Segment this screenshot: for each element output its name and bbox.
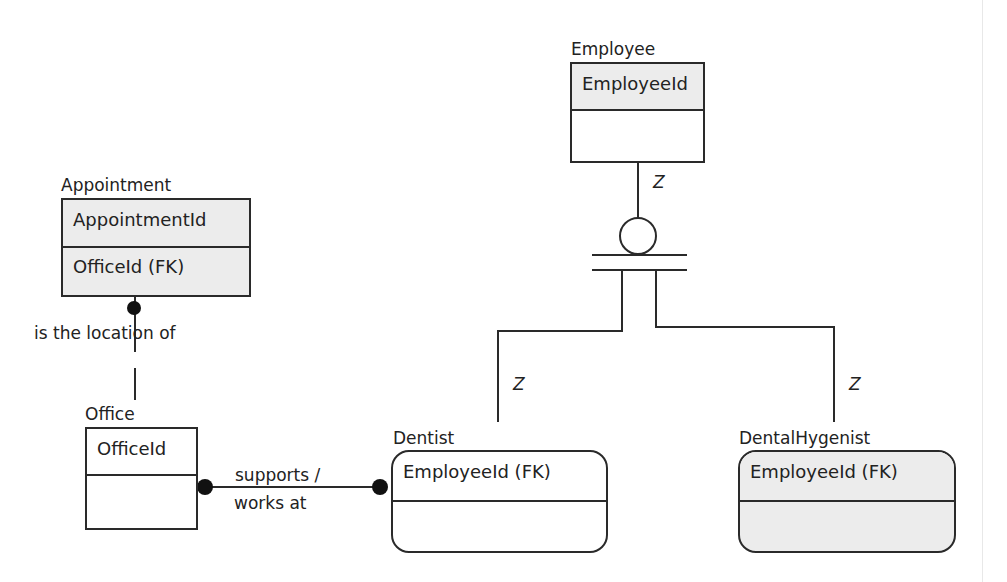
entity-name-office: Office xyxy=(85,404,135,424)
entity-key-appointment: AppointmentId xyxy=(63,200,249,248)
entity-dental-hygenist[interactable]: EmployeeId (FK) xyxy=(738,450,956,553)
entity-attrs-dental-hygenist xyxy=(740,502,954,510)
diagram-canvas: Employee EmployeeId Z Appointment Appoin… xyxy=(0,0,1007,582)
entity-office[interactable]: OfficeId xyxy=(85,427,198,530)
entity-attrs-dentist xyxy=(393,502,606,510)
entity-attrs-office xyxy=(87,476,196,484)
entity-name-appointment: Appointment xyxy=(61,175,171,195)
relationship-dot-office xyxy=(197,479,213,495)
cardinality-label-dentist: Z xyxy=(513,374,525,394)
entity-dentist[interactable]: EmployeeId (FK) xyxy=(391,450,608,553)
relationship-label-works-at: works at xyxy=(234,493,306,513)
entity-appointment[interactable]: AppointmentId OfficeId (FK) xyxy=(61,198,251,297)
relationship-dot-appointment xyxy=(127,301,141,315)
subtype-incomplete-circle xyxy=(620,218,656,254)
entity-attrs-employee xyxy=(572,111,703,119)
entity-name-dental-hygenist: DentalHygenist xyxy=(739,428,870,448)
entity-name-employee: Employee xyxy=(571,39,655,59)
entity-employee[interactable]: EmployeeId xyxy=(570,62,705,163)
cardinality-label-employee: Z xyxy=(653,172,665,192)
cardinality-label-hygenist: Z xyxy=(849,374,861,394)
relationship-dot-dentist xyxy=(372,479,388,495)
entity-attrs-appointment: OfficeId (FK) xyxy=(63,248,249,278)
entity-key-office: OfficeId xyxy=(87,429,196,476)
relationship-label-supports: supports / xyxy=(235,465,320,485)
entity-name-dentist: Dentist xyxy=(393,428,454,448)
relationship-label-is-location-of: is the location of xyxy=(34,323,176,343)
entity-key-dental-hygenist: EmployeeId (FK) xyxy=(740,452,954,502)
entity-key-dentist: EmployeeId (FK) xyxy=(393,452,606,502)
entity-key-employee: EmployeeId xyxy=(572,64,703,111)
